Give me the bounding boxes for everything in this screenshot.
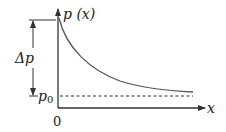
delta-p-text: Δp [14, 50, 34, 66]
p0-sub: 0 [47, 94, 53, 105]
y-axis-label: p (x) [63, 6, 95, 22]
decay-curve [59, 18, 193, 92]
p0-label: p0 [38, 88, 53, 105]
pressure-graph: p (x) x 0 Δp p0 [0, 0, 226, 132]
x-axis-label: x [207, 100, 215, 116]
delta-p-label: Δp [14, 50, 34, 66]
p0-main: p [38, 88, 47, 104]
origin-label: 0 [53, 114, 61, 129]
